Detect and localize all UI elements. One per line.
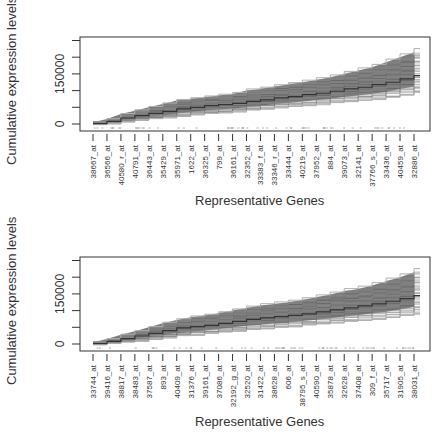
gene-label: 35971_at: [173, 144, 182, 178]
gene-label: 31376_at: [187, 364, 196, 398]
gene-label: 37408_at: [354, 364, 363, 398]
gene-label: 39161_at: [201, 364, 210, 398]
y-axis-label-bottom: Cumulative expression levels: [4, 217, 19, 385]
gene-label: 38795_s_at: [298, 364, 307, 407]
gene-label: 799_at: [215, 144, 224, 169]
data-band: [93, 49, 420, 125]
gene-label: 39073_at: [340, 144, 349, 178]
gene-label: 606_at: [284, 364, 293, 389]
plot-area-bottom: 015000033744_at39416_at38817_at38483_at3…: [0, 220, 434, 440]
gene-label: 33383_f_at: [256, 144, 265, 185]
plot-area-top: 015000038667_at36566_at40580_r_at40791_a…: [0, 0, 434, 220]
y-tick-label: 150000: [53, 54, 67, 94]
gene-label: 39416_at: [103, 364, 112, 398]
gene-label: 33744_at: [89, 364, 98, 398]
y-tick-label: 0: [53, 340, 67, 347]
gene-label: 38817_at: [117, 364, 126, 398]
gene-label: 38628_at: [270, 364, 279, 398]
gene-label: 38031_at: [410, 364, 419, 398]
gene-label: 35717_at: [382, 364, 391, 398]
gene-label: 36325_at: [201, 144, 210, 178]
gene-label: 40590_at: [312, 364, 321, 398]
gene-label: 31422_at: [256, 364, 265, 398]
gene-label: 37766_s_at: [368, 144, 377, 187]
gene-label: 38667_at: [89, 144, 98, 178]
gene-label: 32352_at: [243, 144, 252, 178]
gene-label: 32886_at: [410, 144, 419, 178]
gene-label: 32520_at: [243, 364, 252, 398]
chart-panel-bottom: 015000033744_at39416_at38817_at38483_at3…: [0, 220, 434, 440]
gene-label: 40791_at: [131, 144, 140, 178]
gene-label: 40580_r_at: [117, 144, 126, 185]
gene-label: 37952_at: [312, 144, 321, 178]
gene-label: 40409_at: [173, 364, 182, 398]
gene-label: 40459_at: [396, 144, 405, 178]
gene-label: 33444_at: [284, 144, 293, 178]
gene-label: 40219_at: [298, 144, 307, 178]
gene-label: 37587_at: [145, 364, 154, 398]
gene-label: 33436_at: [382, 144, 391, 178]
gene-label: 36566_at: [103, 144, 112, 178]
gene-label: 37086_at: [215, 364, 224, 398]
gene-label: 32192_g_at: [229, 364, 238, 407]
gene-label: 32628_at: [340, 364, 349, 398]
y-tick-label: 150000: [53, 274, 67, 314]
y-tick-label: 0: [53, 120, 67, 127]
gene-label: 893_at: [159, 364, 168, 389]
data-band: [93, 269, 420, 345]
gene-label: 1622_at: [187, 144, 196, 174]
gene-label: 309_f_at: [368, 364, 377, 396]
y-axis-label-top: Cumulative expression levels: [4, 0, 19, 165]
gene-label: 38483_at: [131, 364, 140, 398]
gene-label: 33346_r_at: [270, 144, 279, 185]
gene-label: 35429_at: [159, 144, 168, 178]
gene-label: 36443_at: [145, 144, 154, 178]
gene-label: 32141_at: [354, 144, 363, 178]
gene-label: 884_at: [326, 144, 335, 169]
gene-label: 36161_at: [229, 144, 238, 178]
x-axis-label-top: Representative Genes: [195, 193, 324, 208]
chart-panel-top: 015000038667_at36566_at40580_r_at40791_a…: [0, 0, 434, 220]
gene-label: 31905_at: [396, 364, 405, 398]
gene-label: 35878_at: [326, 364, 335, 398]
x-axis-label-bottom: Representative Genes: [195, 414, 324, 429]
